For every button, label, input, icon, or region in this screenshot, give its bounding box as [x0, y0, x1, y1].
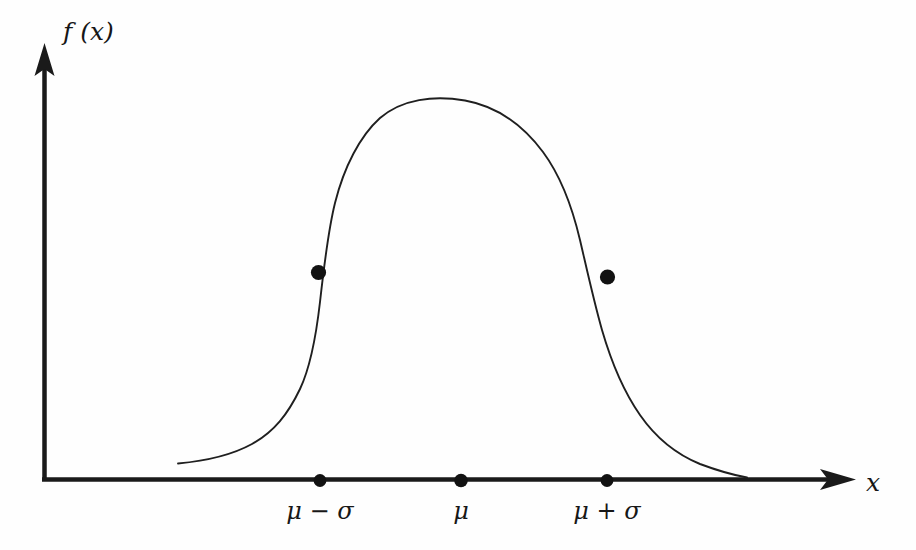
tick-dot-mu-plus-sigma — [601, 474, 614, 487]
x-axis-group — [42, 469, 856, 490]
y-axis-group — [35, 43, 55, 480]
inflection-point-left-dot — [311, 265, 326, 280]
inflection-markers-group — [311, 265, 615, 285]
x-axis-label: x — [866, 468, 880, 497]
normal-density-curve — [178, 98, 747, 477]
tick-dot-mu — [454, 474, 468, 488]
normal-density-curve-group — [178, 98, 747, 477]
normal-distribution-figure: f (x) x μ − σ μ μ + σ — [0, 0, 916, 550]
y-axis-label: f (x) — [61, 17, 114, 46]
tick-label-mu-minus-sigma: μ − σ — [286, 497, 354, 525]
chart-canvas: f (x) x μ − σ μ μ + σ — [0, 0, 916, 550]
tick-label-mu: μ — [453, 497, 469, 525]
inflection-point-right-dot — [600, 269, 615, 284]
tick-dot-mu-minus-sigma — [314, 474, 327, 487]
tick-label-mu-plus-sigma: μ + σ — [573, 497, 641, 525]
